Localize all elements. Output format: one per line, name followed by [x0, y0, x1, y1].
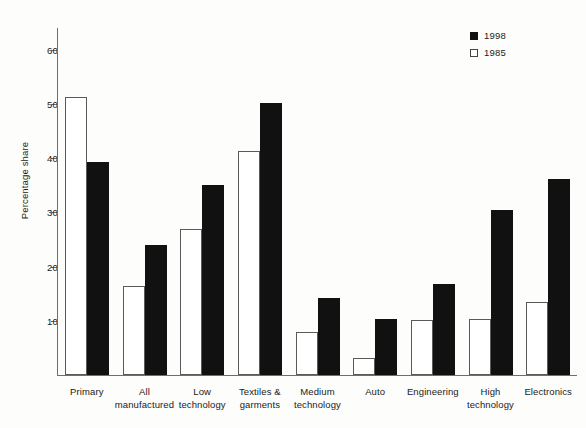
bar-1998 — [87, 162, 109, 375]
legend: 19981985 — [470, 28, 506, 62]
bar-group — [180, 28, 224, 375]
legend-label: 1985 — [484, 47, 506, 58]
bar-1985 — [411, 320, 433, 375]
x-axis-category-label: Electronics — [511, 386, 585, 399]
plot-area — [58, 28, 577, 375]
bar-1998 — [318, 298, 340, 375]
legend-label: 1998 — [484, 30, 506, 41]
bar-1985 — [123, 286, 145, 375]
y-axis-tick-label: 50 — [12, 98, 58, 109]
bar-1985 — [296, 332, 318, 375]
y-axis-title: Percentage share — [19, 121, 30, 241]
bar-1985 — [353, 358, 375, 375]
bar-chart: Percentage share 102030405060 PrimaryAll… — [0, 0, 586, 428]
y-axis-tick-label: 40 — [12, 153, 58, 164]
bar-group — [123, 28, 167, 375]
legend-swatch-1998 — [470, 32, 478, 40]
x-axis-category-label-line: technology — [454, 399, 528, 412]
bar-1998 — [548, 179, 570, 375]
y-axis-tick-label: 60 — [12, 44, 58, 55]
bar-group — [469, 28, 513, 375]
bar-group — [411, 28, 455, 375]
bar-1998 — [202, 185, 224, 375]
x-axis-category-label-line: Electronics — [511, 386, 585, 399]
bar-1998 — [491, 210, 513, 375]
y-axis-tick-label: 10 — [12, 315, 58, 326]
bar-group — [296, 28, 340, 375]
x-axis-category-label-line: technology — [281, 399, 355, 412]
legend-swatch-1985 — [470, 49, 478, 57]
bar-1998 — [433, 284, 455, 375]
y-axis-tick-label: 20 — [12, 261, 58, 272]
bar-1998 — [375, 319, 397, 375]
bar-group — [65, 28, 109, 375]
y-axis-tick-label: 30 — [12, 207, 58, 218]
legend-item: 1998 — [470, 28, 506, 43]
bar-1985 — [469, 319, 491, 375]
x-axis-line — [57, 375, 577, 376]
bar-group — [526, 28, 570, 375]
bar-1985 — [65, 97, 87, 375]
bar-1985 — [238, 151, 260, 375]
bar-1985 — [180, 229, 202, 375]
bar-1985 — [526, 302, 548, 375]
legend-item: 1985 — [470, 45, 506, 60]
bar-1998 — [260, 103, 282, 375]
bar-1998 — [145, 245, 167, 375]
bar-group — [238, 28, 282, 375]
bar-group — [353, 28, 397, 375]
